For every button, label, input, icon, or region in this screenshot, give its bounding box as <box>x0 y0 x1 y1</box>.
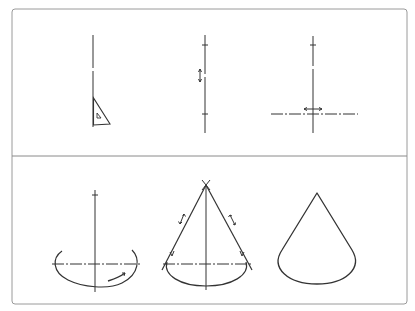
curved-arrow-icon <box>108 273 125 281</box>
cone-construction-diagram <box>0 0 415 311</box>
double-arrow-left-side-icon <box>179 214 186 224</box>
step-5-tangent-lines <box>162 180 252 290</box>
step-2-axis-with-marks <box>199 35 209 133</box>
step-4-ellipse-arc <box>52 190 140 292</box>
step-1-axis-with-set-square <box>93 35 110 127</box>
step-3-axis-with-baseline <box>271 36 358 133</box>
step-6-finished-cone <box>278 193 355 284</box>
double-arrow-vertical-icon <box>199 69 202 82</box>
diagram-canvas <box>0 0 415 311</box>
double-arrow-right-side-icon <box>229 215 236 225</box>
